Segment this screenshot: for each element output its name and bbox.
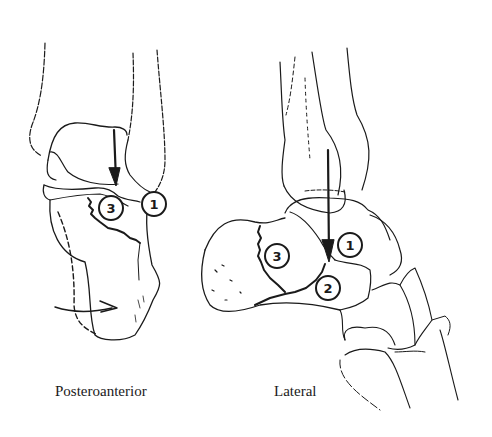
caption-posteroanterior: Posteroanterior bbox=[55, 383, 147, 400]
lateral-marker-2: 2 bbox=[315, 275, 341, 301]
pa-marker-3: 3 bbox=[98, 195, 124, 221]
pa-marker-1: 1 bbox=[141, 191, 167, 217]
caption-lateral: Lateral bbox=[274, 383, 316, 400]
calcaneus-fracture-figure: 3 1 3 1 2 Posteroanterior Lateral bbox=[0, 0, 492, 437]
lateral-view-drawing bbox=[202, 48, 458, 410]
lateral-marker-3: 3 bbox=[264, 243, 290, 269]
illustration-drawing bbox=[0, 0, 492, 437]
lateral-marker-1: 1 bbox=[337, 232, 363, 258]
posteroanterior-view-drawing bbox=[30, 43, 165, 340]
